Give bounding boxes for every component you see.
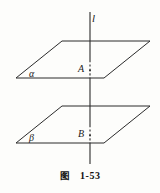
figure-caption-word: 图 bbox=[60, 170, 71, 181]
plane-label-beta: β bbox=[29, 133, 34, 143]
point-a-marker bbox=[89, 70, 91, 72]
plane-label-alpha: α bbox=[29, 69, 34, 79]
line-label-l: l bbox=[92, 13, 95, 24]
geometry-figure: l α A β B 图 1-53 bbox=[0, 0, 160, 193]
point-b-marker bbox=[89, 135, 91, 137]
figure-caption-number: 1-53 bbox=[80, 170, 100, 181]
point-label-a: A bbox=[78, 64, 84, 74]
figure-caption: 图 1-53 bbox=[0, 168, 160, 182]
point-label-b: B bbox=[78, 129, 84, 139]
geometry-diagram bbox=[0, 0, 160, 193]
